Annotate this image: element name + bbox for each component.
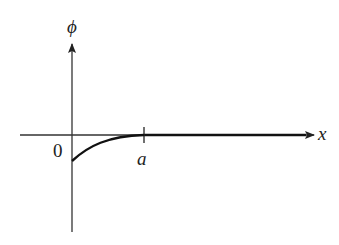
y-axis-label: ϕ	[67, 16, 77, 37]
potential-diagram: ϕ x 0 a	[0, 0, 339, 245]
origin-label: 0	[53, 140, 63, 161]
phi-curve	[72, 135, 144, 161]
tick-label-a: a	[137, 148, 147, 169]
x-axis-label: x	[317, 123, 327, 144]
